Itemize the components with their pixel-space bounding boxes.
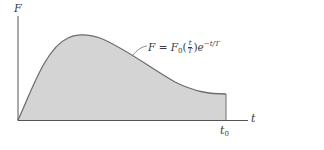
fraction-denominator: T — [188, 48, 193, 55]
exponential-power: −t/T — [204, 40, 220, 48]
open-paren: ( — [183, 41, 187, 53]
equation-equals: = — [155, 41, 170, 53]
diagram-graphics — [0, 0, 324, 150]
curve-equation: F = F0(tT)e−t/T — [148, 40, 220, 55]
formula-leader-line — [133, 46, 147, 55]
x-axis-label: t — [251, 113, 255, 124]
equation-fraction: tT — [188, 40, 193, 55]
t0-marker-subscript: 0 — [224, 130, 228, 138]
equation-coefficient: F — [171, 41, 178, 53]
y-axis-label: F — [14, 3, 22, 14]
t0-marker-label: t0 — [220, 125, 229, 138]
force-time-diagram: F t t0 F = F0(tT)e−t/T — [0, 0, 324, 150]
